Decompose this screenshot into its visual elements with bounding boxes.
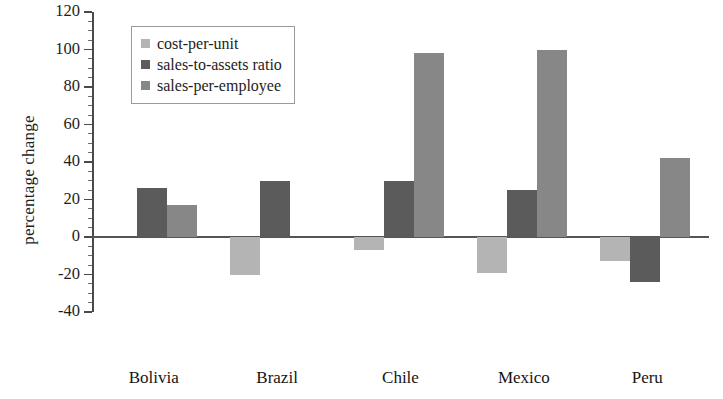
y-tick-minor (88, 96, 93, 97)
bar (537, 50, 567, 238)
bar (230, 237, 260, 275)
y-tick (84, 124, 92, 125)
legend-label: sales-to-assets ratio (157, 56, 282, 74)
y-axis-line (92, 12, 94, 312)
y-tick-minor (88, 255, 93, 256)
y-tick-label: 20 (0, 189, 80, 209)
legend-label: sales-per-employee (157, 77, 281, 95)
y-tick-minor (88, 115, 93, 116)
y-tick-minor (88, 21, 93, 22)
y-tick-label: 0 (0, 226, 80, 246)
x-tick-label: Chile (339, 368, 462, 388)
y-tick (84, 199, 92, 200)
y-tick-minor (88, 293, 93, 294)
y-tick-minor (88, 180, 93, 181)
bar (384, 181, 414, 237)
y-tick-minor (88, 208, 93, 209)
y-tick-minor (88, 265, 93, 266)
y-tick-label: 120 (0, 1, 80, 21)
legend-item: cost-per-unit (141, 33, 282, 54)
y-tick-minor (88, 302, 93, 303)
y-tick-minor (88, 143, 93, 144)
bar (477, 237, 507, 273)
y-tick (84, 49, 92, 50)
bar-chart: percentage change 120100806040200-20-40 … (0, 0, 723, 399)
legend-swatch-icon (141, 60, 150, 69)
y-tick (84, 86, 92, 87)
y-tick (84, 161, 92, 162)
y-tick-label: 100 (0, 39, 80, 59)
y-tick-minor (88, 105, 93, 106)
y-tick-minor (88, 58, 93, 59)
legend-item: sales-to-assets ratio (141, 54, 282, 75)
y-tick-minor (88, 283, 93, 284)
y-tick-minor (88, 30, 93, 31)
bar (660, 158, 690, 237)
legend-swatch-icon (141, 39, 150, 48)
y-tick-minor (88, 171, 93, 172)
y-tick (84, 11, 92, 12)
x-tick-label: Peru (586, 368, 709, 388)
y-tick-minor (88, 152, 93, 153)
y-tick-label: 40 (0, 151, 80, 171)
bar (630, 237, 660, 282)
bar (137, 188, 167, 237)
y-tick-label: -20 (0, 264, 80, 284)
bar (507, 190, 537, 237)
y-tick-minor (88, 246, 93, 247)
legend: cost-per-unit sales-to-assets ratio sale… (131, 26, 295, 104)
y-tick-minor (88, 40, 93, 41)
y-tick (84, 274, 92, 275)
bar (600, 237, 630, 261)
x-tick-label: Mexico (462, 368, 585, 388)
y-tick-label: -40 (0, 301, 80, 321)
legend-label: cost-per-unit (157, 35, 238, 53)
y-tick-minor (88, 190, 93, 191)
y-tick-minor (88, 133, 93, 134)
bar (414, 53, 444, 237)
x-tick-label: Bolivia (92, 368, 215, 388)
legend-swatch-icon (141, 81, 150, 90)
bar (167, 205, 197, 237)
y-tick (84, 236, 92, 237)
y-tick-minor (88, 227, 93, 228)
y-tick-minor (88, 218, 93, 219)
legend-item: sales-per-employee (141, 75, 282, 96)
y-tick-label: 60 (0, 114, 80, 134)
y-tick-minor (88, 77, 93, 78)
bar (260, 181, 290, 237)
bar (354, 237, 384, 250)
y-tick (84, 311, 92, 312)
y-tick-label: 80 (0, 76, 80, 96)
y-axis-title: percentage change (19, 65, 39, 295)
x-tick-label: Brazil (215, 368, 338, 388)
y-tick-minor (88, 68, 93, 69)
